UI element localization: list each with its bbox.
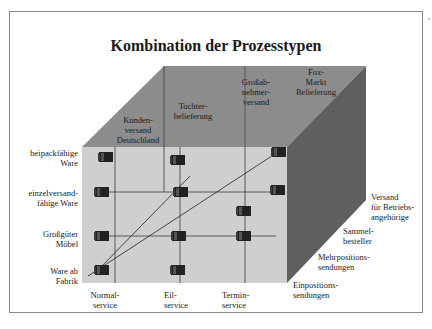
label-grossabnehmerversand: Großab- nehmer- versand bbox=[234, 77, 278, 107]
label-terminservice: Termin- service bbox=[222, 290, 272, 310]
cube-front-face bbox=[82, 147, 287, 283]
label-beipackfaehig: beipackfähige Ware bbox=[10, 148, 78, 168]
label-tochterbelieferung: Tochter- belieferung bbox=[166, 101, 220, 121]
label-grossgueter: Großgüter Möbel bbox=[10, 229, 78, 249]
label-einpositionssendungen: Einpositions- sendungen bbox=[293, 280, 373, 300]
label-kundenversand: Kunden- versand Deutschland bbox=[112, 115, 164, 145]
label-ware-ab-fabrik: Ware ab Fabrik bbox=[10, 266, 78, 286]
label-eilservice: Eil- service bbox=[164, 290, 204, 310]
label-foxmarkt: Fox- Markt Belieferung bbox=[290, 67, 342, 97]
label-sammelbesteller: Sammel- besteller bbox=[343, 226, 403, 246]
label-einzelversandfaehig: einzelversand- fähige Ware bbox=[10, 188, 78, 208]
label-versand-betriebsangehoerige: Versand für Betriebs- angehörige bbox=[371, 192, 431, 222]
label-normalservice: Normal- service bbox=[80, 290, 130, 310]
label-mehrpositionssendungen: Mehrpositions- sendungen bbox=[318, 252, 408, 272]
